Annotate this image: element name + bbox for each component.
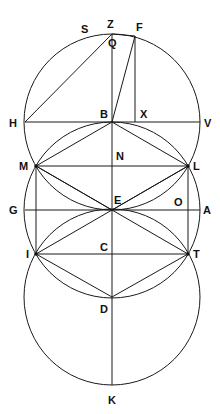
point-l xyxy=(186,164,190,168)
label-k: K xyxy=(108,394,116,406)
label-d: D xyxy=(100,303,108,315)
geometric-diagram: SZFQHBXVMNLGEOAICTDK xyxy=(0,0,220,414)
label-v: V xyxy=(204,117,212,129)
label-g: G xyxy=(9,204,18,216)
label-n: N xyxy=(116,150,124,162)
label-q: Q xyxy=(108,37,117,49)
label-h: H xyxy=(9,117,17,129)
label-m: M xyxy=(19,160,28,172)
point-i xyxy=(34,252,38,256)
label-b: B xyxy=(100,108,108,120)
label-f: F xyxy=(136,21,143,33)
segments-group xyxy=(25,34,200,385)
label-c: C xyxy=(100,241,108,253)
label-z: Z xyxy=(107,18,114,30)
segment-id xyxy=(36,254,112,297)
segment-hz xyxy=(25,34,112,122)
label-o: O xyxy=(174,196,183,208)
label-l: L xyxy=(193,160,200,172)
labels-group: SZFQHBXVMNLGEOAICTDK xyxy=(9,18,212,406)
segment-td xyxy=(112,254,188,297)
label-s: S xyxy=(81,23,88,35)
label-i: I xyxy=(26,248,29,260)
label-a: A xyxy=(203,204,211,216)
point-m xyxy=(34,164,38,168)
label-e: E xyxy=(114,194,121,206)
label-t: T xyxy=(193,248,200,260)
point-t xyxy=(186,252,190,256)
segment-bm xyxy=(36,122,112,166)
label-x: X xyxy=(140,108,148,120)
